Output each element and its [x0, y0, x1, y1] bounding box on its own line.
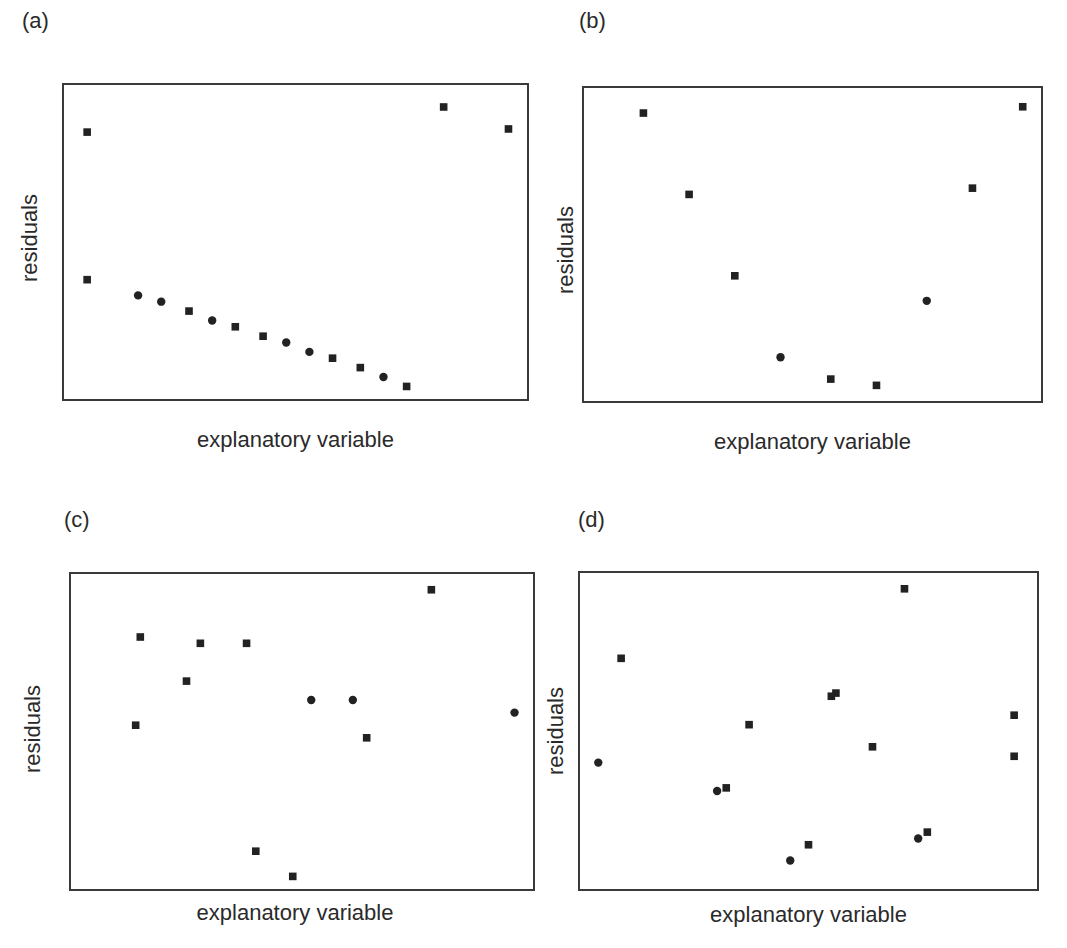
plot-frame-b — [582, 86, 1043, 403]
data-point-square — [363, 734, 371, 742]
data-point-square — [1010, 711, 1018, 719]
data-point-square — [869, 743, 877, 751]
data-point-square — [232, 323, 240, 331]
data-point-circle — [307, 696, 315, 704]
data-point-square — [197, 640, 205, 648]
data-point-square — [83, 128, 91, 136]
y-axis-label-d: residuals — [543, 671, 569, 791]
x-axis-label-a: explanatory variable — [62, 427, 529, 453]
data-point-square — [243, 640, 251, 648]
data-point-square — [685, 191, 693, 199]
plot-frame-c — [69, 572, 535, 891]
x-axis-label-c: explanatory variable — [62, 900, 528, 926]
data-point-square — [924, 828, 932, 836]
data-point-square — [185, 307, 193, 315]
scatter-plot-d — [580, 573, 1037, 889]
data-point-square — [289, 873, 297, 881]
scatter-plot-a — [64, 85, 527, 399]
y-axis-label-b: residuals — [553, 190, 579, 310]
panel-label-d: (d) — [578, 507, 605, 533]
panel-label-c: (c) — [64, 507, 90, 533]
data-point-square — [357, 364, 365, 372]
data-point-square — [901, 585, 909, 593]
data-point-square — [403, 383, 411, 391]
x-axis-label-b: explanatory variable — [582, 429, 1043, 455]
data-point-circle — [282, 338, 290, 346]
data-point-circle — [305, 348, 313, 356]
data-point-circle — [786, 856, 794, 864]
plot-frame-d — [578, 571, 1039, 891]
data-point-square — [640, 109, 648, 117]
data-point-square — [969, 184, 977, 192]
data-point-square — [1010, 752, 1018, 760]
data-point-circle — [157, 297, 165, 305]
data-point-square — [505, 125, 513, 133]
data-point-square — [428, 586, 436, 594]
scatter-plot-b — [584, 88, 1041, 401]
data-point-square — [617, 655, 625, 663]
data-point-circle — [379, 373, 387, 381]
data-point-circle — [134, 291, 142, 299]
data-point-circle — [510, 708, 518, 716]
data-point-square — [183, 677, 191, 685]
data-point-circle — [914, 834, 922, 842]
scatter-plot-c — [71, 574, 533, 889]
data-point-square — [137, 633, 145, 641]
panel-label-a: (a) — [22, 8, 49, 34]
data-point-square — [832, 689, 840, 697]
data-point-circle — [594, 758, 602, 766]
data-point-square — [805, 841, 813, 849]
data-point-square — [745, 721, 753, 729]
data-point-square — [329, 354, 337, 362]
data-point-square — [440, 103, 448, 111]
data-point-circle — [713, 787, 721, 795]
data-point-square — [827, 375, 835, 383]
data-point-circle — [923, 297, 931, 305]
y-axis-label-a: residuals — [17, 178, 43, 298]
data-point-square — [252, 847, 260, 855]
data-point-square — [259, 332, 267, 340]
data-point-circle — [208, 316, 216, 324]
data-point-circle — [776, 353, 784, 361]
data-point-square — [731, 272, 739, 280]
data-point-square — [83, 276, 91, 284]
data-point-square — [873, 382, 881, 390]
data-point-square — [1019, 103, 1027, 111]
data-point-square — [722, 784, 730, 792]
x-axis-label-d: explanatory variable — [578, 902, 1039, 928]
panel-label-b: (b) — [579, 8, 606, 34]
data-point-circle — [349, 696, 357, 704]
y-axis-label-c: residuals — [20, 669, 46, 789]
data-point-square — [132, 721, 140, 729]
plot-frame-a — [62, 83, 529, 401]
